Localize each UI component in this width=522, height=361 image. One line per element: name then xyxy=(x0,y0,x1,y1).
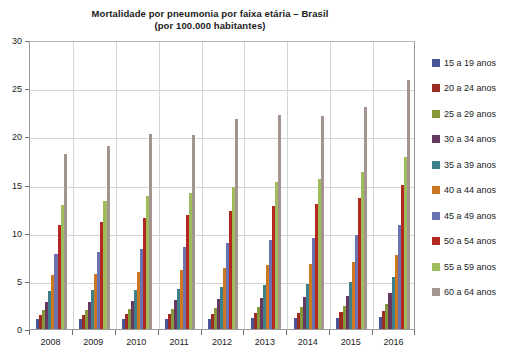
bar-group xyxy=(373,42,416,329)
bar xyxy=(149,134,152,329)
y-axis-tick-label: 15 xyxy=(12,181,22,191)
plot-area xyxy=(29,41,415,330)
bar-group xyxy=(116,42,159,329)
x-axis-tick-mark xyxy=(201,330,202,335)
chart-container: Mortalidade por pneumonia por faixa etár… xyxy=(0,0,522,361)
bar xyxy=(321,116,324,329)
x-axis: 200820092010201120122013201420152016 xyxy=(29,330,415,356)
legend-item-label: 40 a 44 anos xyxy=(444,185,496,195)
chart-subtitle: (por 100.000 habitantes) xyxy=(0,20,420,32)
legend-item-label: 55 a 59 anos xyxy=(444,262,496,272)
legend-item[interactable]: 45 a 49 anos xyxy=(432,203,520,229)
legend-item-label: 15 a 19 anos xyxy=(444,58,496,68)
legend-item[interactable]: 35 a 39 anos xyxy=(432,152,520,178)
x-axis-tick-mark xyxy=(372,330,373,335)
legend-item-label: 30 a 34 anos xyxy=(444,134,496,144)
y-axis-tick-label: 20 xyxy=(12,132,22,142)
bar-group xyxy=(73,42,116,329)
legend-item-label: 25 a 29 anos xyxy=(444,109,496,119)
x-axis-tick-label: 2010 xyxy=(126,337,146,347)
legend-color-swatch xyxy=(432,212,440,220)
x-axis-tick-label: 2013 xyxy=(255,337,275,347)
y-axis-tick-label: 0 xyxy=(17,325,22,335)
legend-item-label: 50 a 54 anos xyxy=(444,236,496,246)
bar-group xyxy=(287,42,330,329)
legend-item-label: 20 a 24 anos xyxy=(444,83,496,93)
bar xyxy=(364,107,367,329)
bar-group xyxy=(202,42,245,329)
legend-item[interactable]: 30 a 34 anos xyxy=(432,127,520,153)
bar xyxy=(107,146,110,329)
chart-title: Mortalidade por pneumonia por faixa etár… xyxy=(0,8,420,32)
legend-color-swatch xyxy=(432,263,440,271)
x-axis-tick-label: 2014 xyxy=(298,337,318,347)
legend-item[interactable]: 20 a 24 anos xyxy=(432,76,520,102)
legend-item[interactable]: 60 a 64 anos xyxy=(432,280,520,306)
legend-item[interactable]: 25 a 29 anos xyxy=(432,101,520,127)
legend-item-label: 45 a 49 anos xyxy=(444,211,496,221)
legend-color-swatch xyxy=(432,59,440,67)
legend-item[interactable]: 15 a 19 anos xyxy=(432,50,520,76)
bar xyxy=(64,154,67,329)
legend-color-swatch xyxy=(432,161,440,169)
x-axis-tick-mark xyxy=(243,330,244,335)
x-axis-tick-mark xyxy=(414,330,415,335)
x-axis-tick-label: 2012 xyxy=(212,337,232,347)
y-axis-tick-label: 30 xyxy=(12,36,22,46)
legend-item[interactable]: 50 a 54 anos xyxy=(432,229,520,255)
legend-color-swatch xyxy=(432,84,440,92)
legend-item[interactable]: 40 a 44 anos xyxy=(432,178,520,204)
legend-item-label: 35 a 39 anos xyxy=(444,160,496,170)
y-axis-tick-label: 5 xyxy=(17,277,22,287)
x-axis-tick-label: 2016 xyxy=(384,337,404,347)
bar xyxy=(235,119,238,329)
chart-title-line1: Mortalidade por pneumonia por faixa etár… xyxy=(92,8,329,19)
legend-color-swatch xyxy=(432,135,440,143)
x-axis-tick-label: 2009 xyxy=(83,337,103,347)
x-axis-tick-mark xyxy=(115,330,116,335)
legend-item[interactable]: 55 a 59 anos xyxy=(432,254,520,280)
x-axis-tick-label: 2011 xyxy=(169,337,188,347)
legend-color-swatch xyxy=(432,237,440,245)
bar xyxy=(192,135,195,329)
legend-color-swatch xyxy=(432,110,440,118)
bar-group xyxy=(30,42,73,329)
x-axis-tick-mark xyxy=(72,330,73,335)
bar xyxy=(278,115,281,329)
x-axis-tick-mark xyxy=(286,330,287,335)
y-axis-tick-label: 10 xyxy=(12,229,22,239)
chart-legend: 15 a 19 anos20 a 24 anos25 a 29 anos30 a… xyxy=(432,50,520,305)
legend-color-swatch xyxy=(432,288,440,296)
legend-color-swatch xyxy=(432,186,440,194)
x-axis-tick-mark xyxy=(329,330,330,335)
x-axis-tick-label: 2015 xyxy=(341,337,361,347)
legend-item-label: 60 a 64 anos xyxy=(444,287,496,297)
bar-group xyxy=(244,42,287,329)
x-axis-tick-mark xyxy=(158,330,159,335)
bar-group xyxy=(159,42,202,329)
y-axis-tick-label: 25 xyxy=(12,84,22,94)
bar-group xyxy=(330,42,373,329)
x-axis-tick-mark xyxy=(29,330,30,335)
bar xyxy=(407,80,410,329)
x-axis-tick-label: 2008 xyxy=(40,337,60,347)
y-axis: 051015202530 xyxy=(0,41,29,330)
